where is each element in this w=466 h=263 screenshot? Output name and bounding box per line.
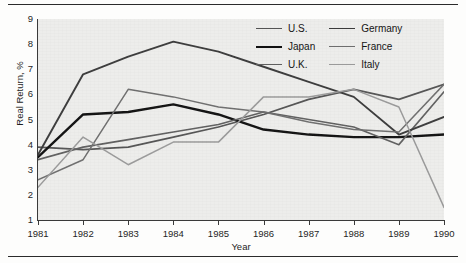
x-tick-label-1990: 1990 xyxy=(421,228,466,239)
series-line-u-s xyxy=(38,84,444,149)
y-tick-label-text: 4 xyxy=(28,140,33,150)
x-tick-mark-1983 xyxy=(128,220,129,225)
x-tick-mark-1988 xyxy=(354,220,355,225)
legend-label-france: France xyxy=(361,41,392,52)
legend-label-japan: Japan xyxy=(288,41,315,52)
legend-label-germany: Germany xyxy=(361,23,402,34)
legend-swatch-u-k xyxy=(256,64,282,65)
x-tick-mark-1985 xyxy=(218,220,219,225)
legend-item-u-s: U.S. xyxy=(256,20,315,37)
legend-swatch-germany xyxy=(329,28,355,29)
legend-item-u-k: U.K. xyxy=(256,56,315,73)
x-tick-label-1983: 1983 xyxy=(105,228,151,239)
legend-item-italy: Italy xyxy=(329,56,402,73)
y-tick-label-text: 1 xyxy=(28,215,33,225)
y-tick-label-text: 7 xyxy=(28,64,33,74)
x-tick-mark-1982 xyxy=(83,220,84,225)
legend-swatch-u-s xyxy=(256,28,282,29)
legend-item-japan: Japan xyxy=(256,38,315,55)
x-tick-label-1981: 1981 xyxy=(15,228,61,239)
x-tick-mark-1984 xyxy=(173,220,174,225)
legend-item-france: France xyxy=(329,38,402,55)
x-tick-mark-1981 xyxy=(38,220,39,225)
series-line-france xyxy=(38,84,444,179)
x-tick-label-1985: 1985 xyxy=(195,228,241,239)
x-tick-label-1987: 1987 xyxy=(286,228,332,239)
x-tick-mark-1989 xyxy=(399,220,400,225)
legend-item-germany: Germany xyxy=(329,20,402,37)
y-tick-label-text: 3 xyxy=(28,165,33,175)
legend-swatch-france xyxy=(329,46,355,47)
y-tick-label-text: 6 xyxy=(28,89,33,99)
x-tick-mark-1987 xyxy=(309,220,310,225)
legend-label-u-s: U.S. xyxy=(288,23,307,34)
legend-label-u-k: U.K. xyxy=(288,59,307,70)
x-tick-mark-1986 xyxy=(264,220,265,225)
y-tick-label-text: 5 xyxy=(28,115,33,125)
bottom-rule xyxy=(8,256,458,257)
legend-swatch-japan xyxy=(256,46,282,48)
chart-legend: U.S.GermanyJapanFranceU.K.Italy xyxy=(252,18,406,76)
x-tick-label-1988: 1988 xyxy=(331,228,377,239)
y-tick-label-text: 2 xyxy=(28,190,33,200)
y-axis-line xyxy=(37,19,38,220)
legend-swatch-italy xyxy=(329,64,355,65)
y-axis-title: Real Return, % xyxy=(14,34,25,154)
y-tick-label-text: 8 xyxy=(28,39,33,49)
top-rule xyxy=(8,4,458,5)
x-tick-label-1989: 1989 xyxy=(376,228,422,239)
x-tick-label-1986: 1986 xyxy=(241,228,287,239)
legend-label-italy: Italy xyxy=(361,59,379,70)
x-tick-label-1984: 1984 xyxy=(150,228,196,239)
y-tick-label-text: 9 xyxy=(28,14,33,24)
x-tick-label-1982: 1982 xyxy=(60,228,106,239)
x-axis-title: Year xyxy=(38,241,444,252)
x-axis-line xyxy=(37,220,445,221)
figure-container: 123456789 198119821983198419851986198719… xyxy=(0,0,466,263)
x-tick-mark-1990 xyxy=(444,220,445,225)
